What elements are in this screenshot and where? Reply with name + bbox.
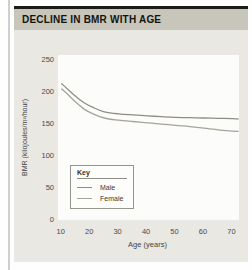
x-tick-label: 10 bbox=[53, 227, 69, 237]
x-tick-label: 20 bbox=[81, 227, 97, 237]
male-line-swatch bbox=[77, 187, 92, 189]
x-tick-label: 50 bbox=[167, 227, 183, 237]
bmr-chart: BMR (kilojoules/m²/hour) Key MaleFemale … bbox=[14, 30, 248, 262]
y-tick-label: 200 bbox=[28, 87, 54, 97]
page-edge-line bbox=[8, 0, 10, 270]
page: DECLINE IN BMR WITH AGE BMR (kilojoules/… bbox=[0, 0, 252, 270]
y-tick-label: 150 bbox=[28, 119, 54, 129]
legend-separator bbox=[77, 178, 127, 179]
legend-label: Male bbox=[100, 184, 115, 191]
figure-title-bar: DECLINE IN BMR WITH AGE bbox=[14, 6, 248, 30]
y-tick-label: 100 bbox=[28, 151, 54, 161]
y-axis-label: BMR (kilojoules/m²/hour) bbox=[18, 55, 30, 220]
female-line bbox=[62, 89, 238, 131]
plot-area: Key MaleFemale bbox=[57, 55, 239, 221]
legend: Key MaleFemale bbox=[70, 165, 134, 209]
x-tick-label: 60 bbox=[195, 227, 211, 237]
y-tick-label: 50 bbox=[28, 183, 54, 193]
y-tick-label: 0 bbox=[28, 215, 54, 225]
x-axis-label: Age (years) bbox=[57, 240, 238, 249]
legend-row: Male bbox=[77, 182, 127, 193]
female-line-swatch bbox=[77, 198, 92, 200]
figure-title: DECLINE IN BMR WITH AGE bbox=[22, 14, 161, 25]
x-tick-label: 30 bbox=[110, 227, 126, 237]
y-tick-label: 250 bbox=[28, 55, 54, 65]
male-line bbox=[62, 84, 238, 119]
legend-label: Female bbox=[100, 195, 123, 202]
x-tick-label: 70 bbox=[223, 227, 239, 237]
bmr-figure: DECLINE IN BMR WITH AGE BMR (kilojoules/… bbox=[14, 6, 248, 262]
legend-row: Female bbox=[77, 193, 127, 204]
legend-title: Key bbox=[77, 169, 127, 176]
x-tick-label: 40 bbox=[138, 227, 154, 237]
legend-entries: MaleFemale bbox=[77, 182, 127, 204]
